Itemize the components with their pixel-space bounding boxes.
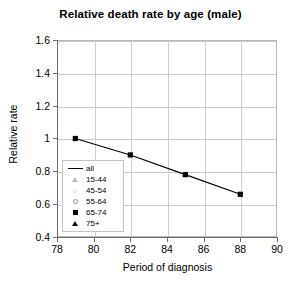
legend: all 15-44 45-54 55-64 65-74 75+ [62,160,124,232]
chart-title: Relative death rate by age (male) [0,8,301,20]
gridline-vertical [131,41,132,236]
faint-circle-key-icon [65,185,85,196]
legend-item-label: 15-44 [85,174,106,185]
legend-item-label: 65-74 [85,207,106,218]
y-tick-label: 0.4 [24,232,50,242]
gridline-vertical [241,41,242,236]
gridline-vertical [205,41,206,236]
legend-item-15-44[interactable]: 15-44 [65,174,120,185]
y-tick-label: 1 [24,133,50,143]
y-tick-mark [53,204,57,205]
legend-item-55-64[interactable]: 55-64 [65,196,120,207]
y-tick-mark [53,171,57,172]
x-tick-mark [240,238,241,242]
x-tick-label: 90 [262,243,292,255]
x-tick-label: 86 [189,243,219,255]
y-tick-label: 1.2 [24,101,50,111]
y-tick-mark [53,40,57,41]
gridline-horizontal [58,139,276,140]
x-tick-label: 80 [79,243,109,255]
legend-item-label: 55-64 [85,196,106,207]
y-tick-label: 1.4 [24,68,50,78]
gridline-vertical [168,41,169,236]
line-key-icon [65,163,85,174]
filled-square-key-icon [65,207,85,218]
legend-item-label: 75+ [85,218,100,229]
y-tick-mark [53,73,57,74]
x-tick-mark [130,238,131,242]
legend-item-label: 45-54 [85,185,106,196]
x-tick-mark [94,238,95,242]
y-tick-label: 0.6 [24,199,50,209]
x-tick-mark [57,238,58,242]
legend-item-label: all [85,163,94,174]
x-tick-label: 88 [225,243,255,255]
y-tick-label: 0.8 [24,166,50,176]
y-axis-title: Relative rate [7,74,19,194]
legend-item-all[interactable]: all [65,163,120,174]
x-tick-label: 84 [152,243,182,255]
x-axis-title: Period of diagnosis [57,261,278,273]
gridline-horizontal [58,41,276,42]
gridline-horizontal [58,74,276,75]
x-tick-mark [277,238,278,242]
open-triangle-key-icon [65,174,85,185]
y-tick-mark [53,138,57,139]
legend-item-65-74[interactable]: 65-74 [65,207,120,218]
filled-triangle-key-icon [65,218,85,229]
x-tick-mark [204,238,205,242]
x-tick-label: 82 [115,243,145,255]
legend-item-75-plus[interactable]: 75+ [65,218,120,229]
y-axis-line [57,40,58,238]
open-circle-key-icon [65,196,85,207]
gridline-horizontal [58,107,276,108]
x-tick-label: 78 [42,243,72,255]
y-tick-mark [53,106,57,107]
chart-container: Relative death rate by age (male) 1.6 1.… [0,0,301,293]
y-tick-label: 1.6 [24,35,50,45]
legend-item-45-54[interactable]: 45-54 [65,185,120,196]
x-tick-mark [167,238,168,242]
